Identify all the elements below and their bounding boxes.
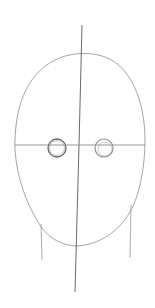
right-eye-circle	[95, 139, 113, 157]
left-eye-circle-inner	[50, 141, 65, 156]
left-neck-line	[41, 224, 42, 260]
head-outline	[15, 53, 145, 246]
right-neck-line	[130, 205, 131, 258]
right-eye-circle-inner	[98, 142, 112, 156]
left-eye-circle	[48, 139, 66, 157]
face-sketch	[0, 0, 155, 308]
vertical-center-line	[75, 25, 82, 292]
